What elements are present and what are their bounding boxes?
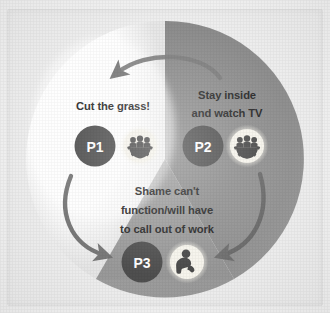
segment-p1-line-0: Cut the grass! (76, 100, 150, 112)
badge-p2: P2 (183, 126, 224, 167)
badge-p2-label: P2 (194, 139, 211, 155)
segment-p2-line-1: and watch TV (192, 107, 264, 119)
icon-badge-p2 (226, 125, 269, 168)
segment-p3-line-1: function/will have (121, 204, 213, 216)
badge-p1-label: P1 (86, 139, 103, 155)
segment-p3-line-2: to call out of work (120, 223, 215, 235)
badge-p3-label: P3 (133, 255, 150, 271)
segment-p2-line-0: Stay inside (198, 89, 256, 101)
cycle-diagram: Cut the grass! P1 (7, 9, 321, 304)
icon-badge-p1 (119, 125, 161, 167)
badge-p1: P1 (75, 126, 116, 167)
icon-badge-p3 (166, 241, 209, 284)
photo-card: Cut the grass! P1 (0, 0, 330, 313)
segment-p3-line-0: Shame can't (135, 185, 200, 197)
badge-p3: P3 (122, 242, 163, 283)
